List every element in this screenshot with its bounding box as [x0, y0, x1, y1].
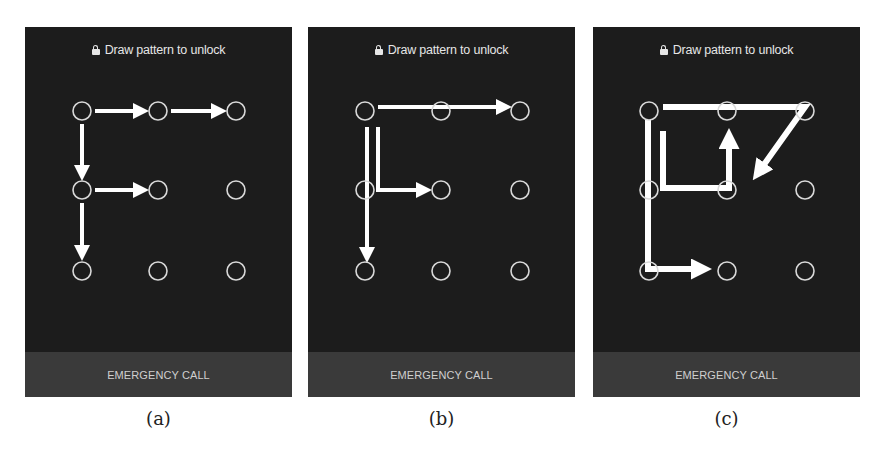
lockscreen-panel-a: Draw pattern to unlock EMERGENCY CALL [25, 27, 292, 397]
lockscreen-panel-b: Draw pattern to unlock EMERGENCY CALL [308, 27, 575, 397]
lockscreen-panel-c: Draw pattern to unlock EMERGENCY CALL [593, 27, 860, 397]
caption-b: (b) [308, 408, 575, 429]
emergency-call-button[interactable]: EMERGENCY CALL [25, 352, 292, 397]
caption-c: (c) [593, 408, 860, 429]
pattern-grid[interactable] [308, 27, 575, 352]
emergency-call-button[interactable]: EMERGENCY CALL [593, 352, 860, 397]
pattern-grid[interactable] [25, 27, 292, 352]
emergency-call-button[interactable]: EMERGENCY CALL [308, 352, 575, 397]
pattern-arrows [648, 107, 805, 269]
caption-a: (a) [25, 408, 292, 429]
pattern-grid[interactable] [593, 27, 860, 352]
